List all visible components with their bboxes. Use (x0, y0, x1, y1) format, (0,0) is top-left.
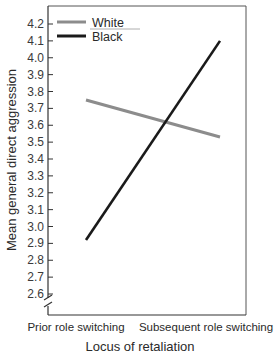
series-line-white (86, 100, 220, 137)
y-tick-label: 3.4 (27, 152, 44, 166)
y-tick-label: 3.1 (27, 203, 44, 217)
legend: WhiteBlack (57, 16, 140, 44)
series-line-black (86, 41, 220, 240)
y-tick-label: 4.1 (27, 34, 44, 48)
y-tick-label: 4.2 (27, 17, 44, 31)
axis-break-icon (44, 295, 52, 307)
line-chart: 4.24.14.03.93.83.73.63.53.43.33.23.13.02… (0, 0, 277, 363)
legend-label-black: Black (92, 30, 123, 44)
y-tick-label: 2.8 (27, 253, 44, 267)
y-tick-label: 3.2 (27, 186, 44, 200)
y-tick-label: 3.3 (27, 169, 44, 183)
y-tick-label: 4.0 (27, 51, 44, 65)
y-tick-label: 2.9 (27, 236, 44, 250)
x-category-label: Prior role switching (27, 321, 124, 333)
plot-frame (48, 6, 246, 315)
data-lines (86, 41, 220, 240)
x-axis-title: Locus of retaliation (85, 339, 194, 354)
y-tick-label: 2.7 (27, 270, 44, 284)
x-axis-categories: Prior role switchingSubsequent role swit… (27, 321, 273, 333)
x-category-label: Subsequent role switching (139, 321, 273, 333)
y-tick-label: 3.6 (27, 118, 44, 132)
y-tick-label: 3.9 (27, 68, 44, 82)
y-axis-title: Mean general direct aggression (4, 69, 19, 251)
y-axis-ticks: 4.24.14.03.93.83.73.63.53.43.33.23.13.02… (27, 17, 53, 301)
legend-label-white: White (92, 16, 124, 30)
y-tick-label: 3.0 (27, 220, 44, 234)
y-tick-label: 3.8 (27, 85, 44, 99)
y-tick-label: 3.5 (27, 135, 44, 149)
y-tick-label: 3.7 (27, 101, 44, 115)
y-tick-label: 2.6 (27, 287, 44, 301)
